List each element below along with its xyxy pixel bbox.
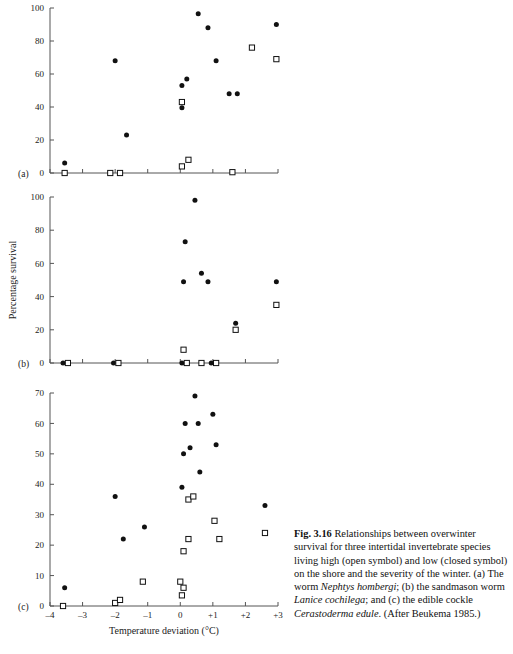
data-point-closed (192, 394, 197, 399)
series-low-shore (62, 11, 279, 165)
x-axis-title: Temperature deviation (°C) (109, 625, 219, 637)
caption-text-part4: . (After Beukema 1985.) (379, 608, 481, 619)
data-point-open (60, 603, 65, 608)
y-tick-label: 30 (35, 510, 45, 520)
data-point-closed (179, 361, 184, 366)
caption-text-part2: ; (b) the sandmason worm (396, 581, 505, 592)
data-point-open (179, 99, 184, 104)
data-point-open (181, 585, 186, 590)
data-point-open (274, 57, 279, 62)
y-tick-label: 0 (40, 168, 45, 178)
data-point-closed (62, 585, 67, 590)
data-point-open (117, 597, 122, 602)
data-point-open (214, 360, 219, 365)
x-tick-label: –4 (45, 610, 56, 620)
y-tick-label: 80 (35, 36, 45, 46)
data-point-closed (197, 470, 202, 475)
data-point-closed (196, 421, 201, 426)
y-tick-label: 40 (35, 479, 45, 489)
data-point-open (108, 170, 113, 175)
y-tick-label: 60 (35, 419, 45, 429)
x-tick-label: 0 (178, 610, 183, 620)
series-high-shore (62, 45, 279, 176)
y-tick-label: 10 (35, 571, 45, 581)
data-point-open (179, 593, 184, 598)
x-tick-label: +3 (273, 610, 283, 620)
data-point-closed (183, 239, 188, 244)
data-point-closed (214, 58, 219, 63)
y-axis-title: Percentage survival (7, 240, 18, 319)
y-tick-label: 50 (35, 449, 45, 459)
data-point-closed (179, 105, 184, 110)
y-tick-label: 20 (35, 540, 45, 550)
x-tick-label: –2 (110, 610, 120, 620)
data-point-closed (111, 361, 116, 366)
data-point-closed (181, 451, 186, 456)
data-point-open (179, 164, 184, 169)
x-tick-label: –1 (142, 610, 152, 620)
data-point-closed (179, 485, 184, 490)
series-high-shore (65, 302, 279, 365)
data-point-open (62, 170, 67, 175)
data-point-open (186, 536, 191, 541)
data-point-closed (205, 279, 210, 284)
x-tick-label: +2 (241, 610, 251, 620)
data-point-closed (227, 91, 232, 96)
data-point-closed (61, 361, 66, 366)
y-tick-label: 60 (35, 69, 45, 79)
y-tick-label: 70 (35, 388, 45, 398)
data-point-closed (209, 361, 214, 366)
data-point-open (140, 579, 145, 584)
caption-species-a: Nephtys hombergi (321, 581, 397, 592)
data-point-closed (121, 537, 126, 542)
data-point-open (186, 157, 191, 162)
data-point-closed (199, 271, 204, 276)
data-point-open (230, 170, 235, 175)
y-tick-label: 20 (35, 135, 45, 145)
data-point-open (262, 530, 267, 535)
y-tick-label: 40 (35, 292, 45, 302)
x-tick-label: –3 (77, 610, 88, 620)
data-point-closed (192, 198, 197, 203)
data-point-open (233, 327, 238, 332)
panel-letter-c: (c) (18, 602, 29, 613)
data-point-closed (262, 503, 267, 508)
y-tick-label: 40 (35, 102, 45, 112)
panel-c: 010203040506070–4–3–2–10+1+2+3(c) (18, 388, 283, 620)
panel-b: 020406080100(b) (18, 192, 279, 369)
data-point-open (212, 518, 217, 523)
panel-letter-b: (b) (18, 359, 29, 370)
series-high-shore (60, 494, 267, 609)
data-point-closed (142, 524, 147, 529)
data-point-open (181, 347, 186, 352)
data-point-open (217, 536, 222, 541)
series-low-shore (61, 198, 279, 366)
y-tick-label: 20 (35, 325, 45, 335)
data-point-closed (214, 442, 219, 447)
data-point-open (191, 494, 196, 499)
y-tick-label: 60 (35, 259, 45, 269)
panel-letter-a: (a) (18, 169, 29, 180)
caption-figure-label: Fig. 3.16 (294, 528, 332, 539)
panel-a: 020406080100(a) (18, 3, 279, 179)
data-point-closed (184, 76, 189, 81)
y-tick-label: 100 (31, 192, 45, 202)
data-point-closed (113, 494, 118, 499)
data-point-closed (274, 279, 279, 284)
figure-caption: Fig. 3.16 Relationships between overwint… (294, 527, 508, 620)
data-point-closed (113, 58, 118, 63)
caption-species-b: Lanice cochilega (294, 594, 365, 605)
series-low-shore (62, 394, 267, 591)
data-point-open (65, 360, 70, 365)
data-point-open (274, 302, 279, 307)
data-point-closed (124, 133, 129, 138)
data-point-closed (205, 25, 210, 30)
data-point-open (181, 549, 186, 554)
data-point-closed (188, 445, 193, 450)
caption-species-c: Cerastoderma edule (294, 608, 379, 619)
data-point-open (178, 579, 183, 584)
data-point-closed (210, 412, 215, 417)
data-point-open (249, 45, 254, 50)
data-point-open (184, 360, 189, 365)
y-tick-label: 0 (40, 358, 45, 368)
